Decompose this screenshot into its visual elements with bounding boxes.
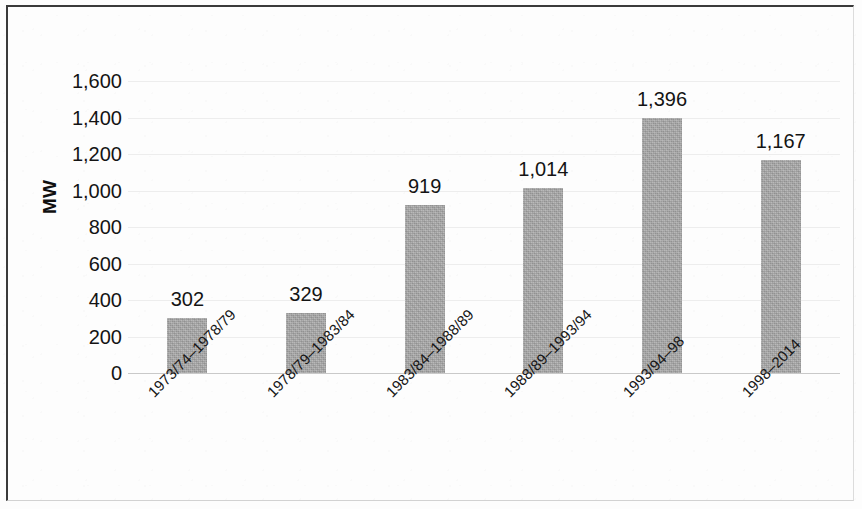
gridline — [128, 81, 840, 82]
plot-area: 1,6001,4001,2001,0008006004002000 MW 302… — [0, 0, 862, 509]
y-axis-tick-labels: 1,6001,4001,2001,0008006004002000 — [0, 0, 122, 509]
chart-page: 1,6001,4001,2001,0008006004002000 MW 302… — [0, 0, 862, 509]
y-axis-tick-label: 0 — [2, 363, 122, 383]
y-axis-tick-label: 1,000 — [2, 181, 122, 201]
bar-value-label: 1,167 — [721, 131, 841, 151]
y-axis-tick-label: 1,200 — [2, 144, 122, 164]
gridline — [128, 227, 840, 228]
y-axis-tick-label: 1,600 — [2, 71, 122, 91]
gridline — [128, 118, 840, 119]
y-axis-tick-label: 600 — [2, 254, 122, 274]
y-axis-tick-label: 800 — [2, 217, 122, 237]
bar-value-label: 1,014 — [483, 159, 603, 179]
x-axis-baseline — [128, 373, 840, 374]
bar-value-label: 302 — [127, 289, 247, 309]
y-axis-tick-label: 400 — [2, 290, 122, 310]
y-axis-tick-label: 1,400 — [2, 108, 122, 128]
bar-value-label: 1,396 — [602, 89, 722, 109]
gridline — [128, 264, 840, 265]
y-axis-tick-label: 200 — [2, 327, 122, 347]
bar-value-label: 329 — [246, 284, 366, 304]
bar-value-label: 919 — [365, 176, 485, 196]
gridline — [128, 154, 840, 155]
gridline — [128, 337, 840, 338]
y-axis-title: MW — [39, 169, 61, 225]
